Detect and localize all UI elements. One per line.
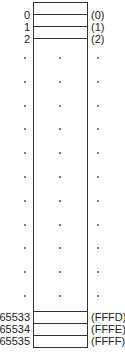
- ellipsis-dot: [24, 271, 26, 273]
- ellipsis-dot: [59, 81, 61, 83]
- ellipsis-dot: [97, 247, 99, 249]
- address-decimal: 65533: [0, 311, 30, 323]
- address-hex: (0): [91, 9, 104, 21]
- ellipsis-dot: [24, 176, 26, 178]
- cell-divider: [33, 38, 88, 39]
- ellipsis-dot: [59, 224, 61, 226]
- ellipsis-dot: [24, 105, 26, 107]
- ellipsis-dot: [59, 105, 61, 107]
- ellipsis-dot: [24, 247, 26, 249]
- address-hex: (FFFD): [91, 311, 125, 323]
- ellipsis-dot: [24, 81, 26, 83]
- address-decimal: 65534: [0, 323, 30, 335]
- ellipsis-dot: [97, 128, 99, 130]
- ellipsis-dot: [59, 57, 61, 59]
- address-hex: (2): [91, 33, 104, 45]
- ellipsis-dot: [59, 176, 61, 178]
- ellipsis-dot: [24, 224, 26, 226]
- ellipsis-dot: [97, 57, 99, 59]
- ellipsis-dot: [97, 200, 99, 202]
- address-hex: (FFFF): [91, 335, 125, 347]
- ellipsis-dot: [97, 81, 99, 83]
- ellipsis-dot: [97, 152, 99, 154]
- ellipsis-dot: [24, 152, 26, 154]
- ellipsis-dot: [97, 105, 99, 107]
- cell-divider: [33, 335, 88, 336]
- ellipsis-dot: [97, 295, 99, 297]
- ellipsis-dot: [24, 295, 26, 297]
- ellipsis-dot: [24, 200, 26, 202]
- address-decimal: 65535: [0, 335, 30, 347]
- ellipsis-dot: [59, 295, 61, 297]
- ellipsis-dot: [59, 200, 61, 202]
- cell-divider: [33, 14, 88, 15]
- ellipsis-dot: [97, 176, 99, 178]
- address-decimal: 0: [24, 9, 30, 21]
- cell-divider: [33, 311, 88, 312]
- ellipsis-dot: [24, 57, 26, 59]
- address-decimal: 2: [24, 33, 30, 45]
- address-hex: (FFFE): [91, 323, 125, 335]
- ellipsis-dot: [24, 128, 26, 130]
- address-hex: (1): [91, 21, 104, 33]
- ellipsis-dot: [97, 224, 99, 226]
- cell-divider: [33, 26, 88, 27]
- ellipsis-dot: [97, 271, 99, 273]
- address-decimal: 1: [24, 21, 30, 33]
- cell-divider: [33, 323, 88, 324]
